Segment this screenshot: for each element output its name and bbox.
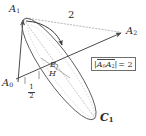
distance-label-top: 2 — [68, 10, 74, 20]
point-label-h: H — [49, 70, 56, 78]
fraction-numerator: 1 — [28, 84, 35, 91]
equation-equals: = 2 — [118, 60, 132, 69]
fraction-denominator: 2 — [28, 93, 35, 100]
point-label-a1: A1 — [9, 4, 20, 14]
ellipse-major-axis-dotted — [24, 20, 95, 118]
point-label-a2: A2 — [126, 26, 137, 36]
boxed-equation: |A0A2|= 2 — [91, 57, 136, 71]
curve-label-c1: C1 — [100, 112, 114, 124]
half-fraction-label: 1 2 — [28, 84, 35, 100]
point-label-a0: A0 — [2, 78, 13, 88]
vector-overbar: A0A2 — [97, 59, 115, 69]
point-label-e: E — [50, 61, 56, 69]
